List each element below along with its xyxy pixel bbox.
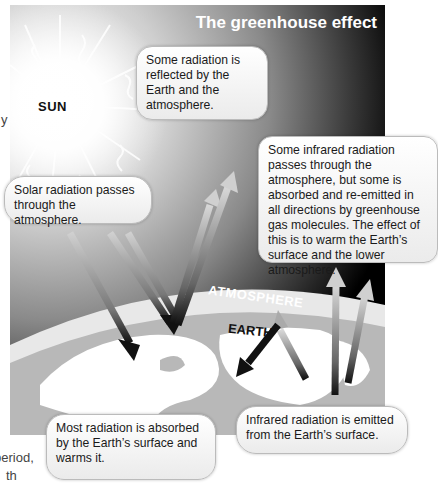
page-text-fragment: y bbox=[1, 112, 8, 127]
callout-solar: Solar radiation passes through the atmos… bbox=[4, 176, 152, 224]
diagram-title: The greenhouse effect bbox=[196, 13, 377, 33]
page-text-fragment: th bbox=[6, 468, 17, 483]
callout-absorbed: Most radiation is absorbed by the Earth’… bbox=[46, 414, 216, 480]
callout-reflected: Some radiation is reflected by the Earth… bbox=[136, 46, 268, 120]
callout-infrared: Some infrared radiation passes through t… bbox=[258, 136, 438, 263]
page-text-fragment: period, bbox=[0, 450, 34, 465]
sun-label: SUN bbox=[38, 99, 67, 114]
callout-emitted: Infrared radiation is emitted from the E… bbox=[236, 406, 408, 454]
